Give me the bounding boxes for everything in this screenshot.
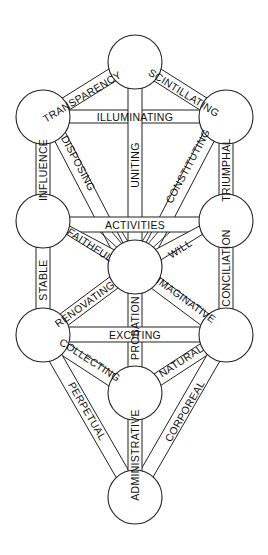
label-stable: STABLE [37, 259, 49, 300]
label-perpetual: PERPETUAL [66, 380, 109, 442]
tree-of-life-diagram: TRANSPARENCY SCINTILLATING ILLUMINATING … [0, 0, 268, 555]
label-influence: INFLUENCE [37, 139, 49, 201]
label-illuminating: ILLUMINATING [97, 111, 173, 123]
label-conciliation: CONCILIATION [220, 229, 232, 307]
node-middle-left [16, 194, 70, 248]
label-renovating: RENOVATING [52, 278, 116, 329]
label-exciting: EXCITING [109, 329, 161, 341]
label-triumphal: TRIUMPHAL [220, 138, 232, 201]
label-constituting: CONSTITUTING [163, 127, 212, 205]
label-administrative: ADMINISTRATIVE [129, 409, 141, 501]
label-imaginative: IMAGINATIVE [154, 274, 218, 325]
label-activities: ACTIVITIES [105, 219, 165, 231]
band-overlays [129, 245, 142, 249]
label-uniting: UNITING [129, 142, 141, 187]
label-corporeal: CORPOREAL [162, 378, 207, 443]
